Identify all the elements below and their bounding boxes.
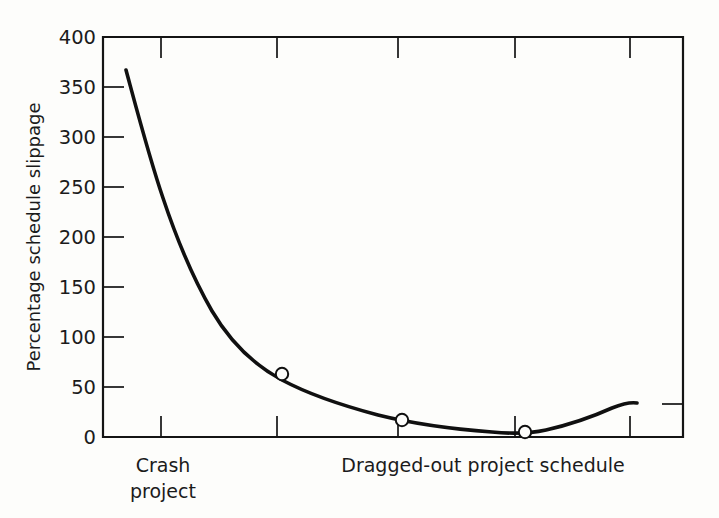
chart-figure: 400 350 300 250 200 150 100 50 0 [0, 0, 719, 518]
data-point-marker [519, 426, 531, 438]
y-axis-ticks [103, 37, 124, 387]
y-tick-label: 350 [59, 76, 96, 99]
y-tick-label: 250 [59, 176, 96, 199]
y-tick-label: 200 [59, 226, 96, 249]
slippage-curve [126, 70, 637, 433]
data-point-markers [276, 368, 531, 438]
y-tick-label: 100 [59, 326, 96, 349]
data-point-marker [276, 368, 288, 380]
y-tick-label: 50 [71, 376, 96, 399]
x-axis-ticks [161, 37, 630, 437]
y-axis-title: Percentage schedule slippage [23, 102, 44, 371]
y-tick-label: 300 [59, 126, 96, 149]
schedule-slippage-chart: 400 350 300 250 200 150 100 50 0 [0, 0, 719, 518]
right-axis-ticks [662, 37, 683, 404]
y-axis-tick-labels: 400 350 300 250 200 150 100 50 0 [59, 26, 96, 449]
y-tick-label: 150 [59, 276, 96, 299]
plot-frame [103, 37, 683, 437]
x-annotation-dragged-out: Dragged-out project schedule [341, 454, 624, 476]
x-annotation-crash-line2: project [130, 480, 196, 502]
data-point-marker [396, 414, 408, 426]
x-annotation-crash-line1: Crash [136, 454, 191, 476]
y-tick-label: 0 [84, 426, 96, 449]
y-tick-label: 400 [59, 26, 96, 49]
